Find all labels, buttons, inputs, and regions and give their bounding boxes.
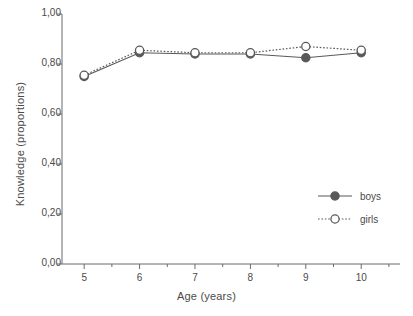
series-lines: [84, 47, 361, 77]
legend-label-girls: girls: [360, 214, 378, 225]
x-tick-label: 10: [341, 272, 381, 283]
x-axis-title: Age (years): [0, 290, 413, 302]
y-tick-label: 0,00: [1, 257, 61, 268]
x-tick-label: 7: [175, 272, 215, 283]
y-tick-label: 0,60: [1, 107, 61, 118]
x-tick-label: 5: [64, 272, 104, 283]
data-point-girls-9: [302, 42, 310, 50]
data-point-girls-5: [80, 71, 88, 79]
x-tick-label: 9: [286, 272, 326, 283]
legend-marker-girls: [331, 215, 339, 223]
data-point-boys-9: [302, 54, 310, 62]
chart-figure: Knowledge (proportions) Age (years) 0,00…: [0, 0, 413, 316]
axes-group: [62, 14, 400, 264]
data-point-girls-8: [246, 49, 254, 57]
series-line-girls: [84, 47, 361, 76]
line-chart-plot: [0, 0, 413, 316]
y-tick-label: 1,00: [1, 7, 61, 18]
x-tick-label: 6: [120, 272, 160, 283]
legend-symbols: [318, 192, 352, 223]
legend-label-boys: boys: [360, 191, 381, 202]
data-point-girls-7: [191, 49, 199, 57]
y-tick-label: 0,20: [1, 207, 61, 218]
x-tick-marks: [84, 264, 389, 269]
legend-marker-boys: [331, 192, 339, 200]
y-tick-label: 0,40: [1, 157, 61, 168]
data-point-girls-6: [135, 46, 143, 54]
x-tick-label: 8: [230, 272, 270, 283]
y-tick-label: 0,80: [1, 57, 61, 68]
series-markers: [80, 42, 365, 80]
y-tick-marks: [57, 14, 62, 264]
data-point-girls-10: [357, 46, 365, 54]
